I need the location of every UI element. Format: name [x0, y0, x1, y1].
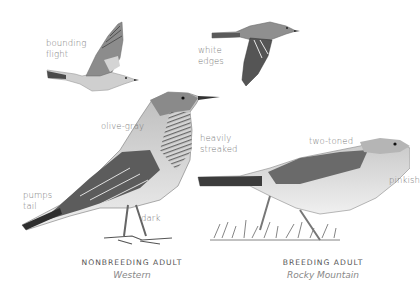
annotation-text: heavily — [200, 133, 238, 144]
annotation-text: streaked — [200, 144, 238, 155]
annotation-text: edges — [198, 56, 224, 67]
caption-subtitle: Rocky Mountain — [253, 270, 393, 280]
annotation-text: pumps — [23, 190, 52, 201]
annotation-heavily-streaked: heavily streaked — [200, 133, 238, 154]
annotation-olive-gray: olive-gray — [101, 121, 144, 132]
bird-nonbreeding-western — [22, 92, 220, 244]
annotation-text: bounding — [46, 38, 86, 49]
annotation-text: olive-gray — [101, 121, 144, 131]
caption-title: BREEDING ADULT — [253, 258, 393, 267]
bird-flight-white-edges — [212, 22, 300, 86]
annotation-text: flight — [46, 49, 86, 60]
annotation-two-toned: two-toned — [309, 136, 353, 147]
caption-subtitle: Western — [62, 270, 202, 280]
caption-nonbreeding-adult: NONBREEDING ADULT Western — [62, 258, 202, 280]
annotation-text: dark — [141, 213, 160, 223]
annotation-white-edges: white edges — [198, 45, 224, 66]
annotation-dark: dark — [141, 213, 160, 224]
annotation-text: two-toned — [309, 136, 353, 146]
annotation-text: tail — [23, 201, 52, 212]
annotation-bounding-flight: bounding flight — [46, 38, 86, 59]
annotation-text: white — [198, 45, 224, 56]
caption-breeding-adult: BREEDING ADULT Rocky Mountain — [253, 258, 393, 280]
annotation-pumps-tail: pumps tail — [23, 190, 52, 211]
annotation-pinkish: pinkish — [389, 175, 420, 186]
annotation-text: pinkish — [389, 175, 420, 185]
caption-title: NONBREEDING ADULT — [62, 258, 202, 267]
grass-tuft — [210, 220, 340, 240]
